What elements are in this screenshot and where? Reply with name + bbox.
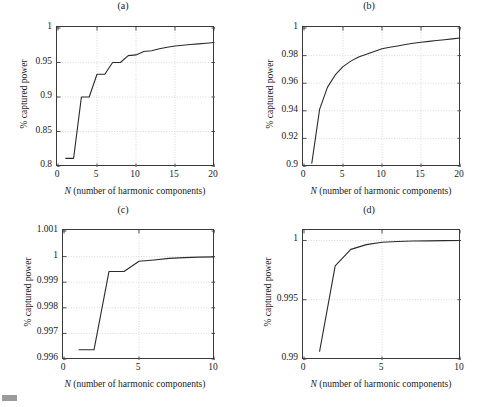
panel-c-ytick-4: 1 <box>0 251 58 261</box>
panel-c-title: (c) <box>0 204 246 216</box>
panel-c-data-line <box>79 257 214 350</box>
panel-a-chart-canvas <box>57 27 215 167</box>
panel-c-ytick-1: 0.997 <box>0 327 58 337</box>
panel-b-xtick-3: 15 <box>405 170 435 180</box>
panel-b-data-line <box>312 38 460 163</box>
panel-d-data-line <box>320 240 460 351</box>
panel-d-y-axis-label: % captured power <box>263 244 273 340</box>
panel-d-plot-area <box>302 229 460 359</box>
panel-d-xtick-1: 5 <box>366 363 396 373</box>
panel-b: (b) % captured power N (number of harmon… <box>246 0 492 204</box>
panel-d-ytick-0: 0.99 <box>246 353 298 363</box>
gray-mark <box>2 395 17 401</box>
panel-a-xtick-0: 0 <box>42 170 72 180</box>
panel-a-xtick-4: 20 <box>198 170 228 180</box>
panel-a-x-axis-label: N (number of harmonic components) <box>46 186 224 196</box>
panel-a-ytick-3: 0.95 <box>0 57 52 67</box>
panel-a-ytick-2: 0.9 <box>0 91 52 101</box>
panel-a-xtick-2: 10 <box>120 170 150 180</box>
panel-a-x-axis-text: (number of harmonic components) <box>71 186 206 196</box>
panel-c-chart-canvas <box>63 230 215 360</box>
panel-c: (c) % captured power N (number of harmon… <box>0 204 246 407</box>
panel-b-chart-canvas <box>303 27 461 167</box>
panel-d-chart-canvas <box>303 230 461 360</box>
panel-b-ytick-2: 0.94 <box>246 105 298 115</box>
panel-d-x-axis-text: (number of harmonic components) <box>317 379 452 389</box>
panel-a-title: (a) <box>0 0 246 12</box>
figure-four-panel-captured-power: (a) % captured power N (number of harmon… <box>0 0 492 407</box>
panel-d-ytick-2: 1 <box>246 234 298 244</box>
panel-b-ytick-4: 0.98 <box>246 50 298 60</box>
panel-b-y-axis-label: % captured power <box>265 46 275 142</box>
panel-d-x-axis-label: N (number of harmonic components) <box>292 379 470 389</box>
panel-b-plot-area <box>302 26 460 166</box>
panel-c-ytick-5: 1.001 <box>0 225 58 235</box>
panel-c-xtick-0: 0 <box>48 363 78 373</box>
panel-b-ytick-1: 0.92 <box>246 132 298 142</box>
panel-b-x-axis-text: (number of harmonic components) <box>317 186 452 196</box>
panel-d-xtick-0: 0 <box>288 363 318 373</box>
panel-c-x-axis-text: (number of harmonic components) <box>71 379 206 389</box>
panel-b-ytick-3: 0.96 <box>246 77 298 87</box>
panel-a-xtick-3: 15 <box>159 170 189 180</box>
panel-a-ytick-1: 0.85 <box>0 126 52 136</box>
panel-a-data-line <box>66 42 214 158</box>
panel-d-ytick-1: 0.995 <box>246 294 298 304</box>
panel-c-ytick-3: 0.999 <box>0 276 58 286</box>
panel-b-ytick-0: 0.9 <box>246 160 298 170</box>
panel-b-xtick-1: 5 <box>327 170 357 180</box>
panel-b-ytick-5: 1 <box>246 22 298 32</box>
panel-c-xtick-1: 5 <box>123 363 153 373</box>
panel-a-ytick-0: 0.8 <box>0 160 52 170</box>
panel-a-plot-area <box>56 26 214 166</box>
panel-a-ytick-4: 1 <box>0 22 52 32</box>
panel-b-xtick-0: 0 <box>288 170 318 180</box>
panel-d: (d) % captured power N (number of harmon… <box>246 204 492 407</box>
panel-c-xtick-2: 10 <box>198 363 228 373</box>
panel-c-ytick-2: 0.998 <box>0 302 58 312</box>
panel-c-x-axis-label: N (number of harmonic components) <box>46 379 224 389</box>
panel-c-ytick-0: 0.996 <box>0 353 58 363</box>
panel-a: (a) % captured power N (number of harmon… <box>0 0 246 204</box>
panel-b-xtick-4: 20 <box>444 170 474 180</box>
panel-b-xtick-2: 10 <box>366 170 396 180</box>
panel-b-x-axis-label: N (number of harmonic components) <box>292 186 470 196</box>
panel-d-title: (d) <box>246 204 492 216</box>
panel-d-xtick-2: 10 <box>444 363 474 373</box>
panel-b-title: (b) <box>246 0 492 12</box>
panel-c-plot-area <box>62 229 214 359</box>
panel-a-xtick-1: 5 <box>81 170 111 180</box>
